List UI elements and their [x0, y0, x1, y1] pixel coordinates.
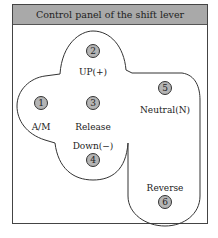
position-4-label: Down(−)	[73, 141, 114, 151]
position-1-label: A/M	[32, 122, 51, 132]
position-1-marker: 1	[34, 96, 48, 110]
position-2-marker: 2	[86, 44, 100, 58]
position-6-label: Reverse	[147, 183, 184, 193]
position-4-marker: 4	[86, 153, 100, 167]
position-3-marker: 3	[86, 96, 100, 110]
position-2-label: UP(+)	[79, 67, 107, 77]
position-5-marker: 5	[158, 81, 172, 95]
shift-gate-outline	[0, 0, 218, 238]
position-5-label: Neutral(N)	[140, 105, 190, 115]
position-6-marker: 6	[158, 195, 172, 209]
position-3-label: Release	[75, 122, 111, 132]
